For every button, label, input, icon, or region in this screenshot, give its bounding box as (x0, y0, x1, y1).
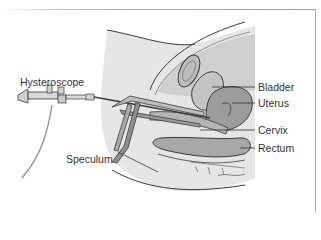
label-hysteroscope: Hysteroscope (20, 76, 84, 88)
label-uterus: Uterus (258, 97, 289, 109)
label-bladder: Bladder (258, 81, 294, 93)
label-speculum: Speculum (66, 153, 113, 165)
label-rectum: Rectum (258, 142, 294, 154)
hysteroscope-eyepiece (18, 89, 28, 103)
hysteroscope-tubing (22, 105, 52, 178)
label-cervix: Cervix (258, 124, 288, 136)
